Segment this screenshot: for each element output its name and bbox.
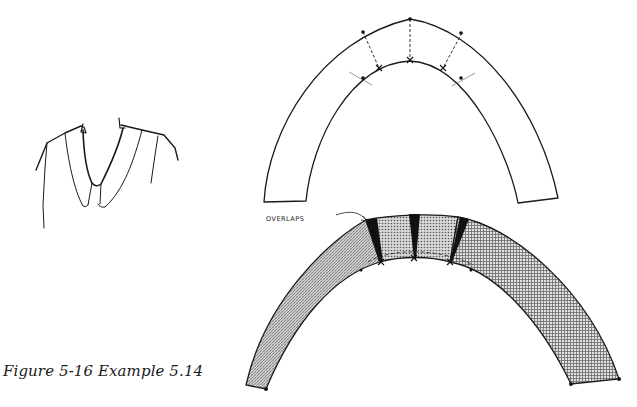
figure-caption: Figure 5-16 Example 5.14 [3, 362, 203, 380]
overlaps-arrow [336, 212, 366, 220]
cross-marks [376, 57, 446, 71]
collar-sketch [36, 118, 178, 228]
fabric-right [450, 217, 619, 384]
fabric-left [246, 220, 380, 389]
lower-pattern [246, 214, 621, 391]
figure-diagram: OVERLAPS [0, 0, 637, 407]
upper-pattern [264, 17, 558, 203]
overlaps-label: OVERLAPS [266, 215, 304, 223]
